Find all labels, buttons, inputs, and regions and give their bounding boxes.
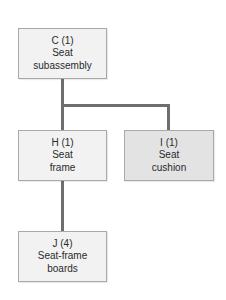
connector-c-branch xyxy=(61,104,170,107)
node-label-line1: Seat xyxy=(159,149,180,162)
node-label-line1: Seat xyxy=(52,149,73,162)
node-label-line2: subassembly xyxy=(33,60,91,73)
node-label-line2: frame xyxy=(50,162,76,175)
node-label-line1: Seat-frame xyxy=(38,250,87,263)
node-code: I (1) xyxy=(160,137,178,150)
node-label-line2: boards xyxy=(47,263,78,276)
node-label-line1: Seat xyxy=(52,47,73,60)
node-i-seat-cushion: I (1) Seat cushion xyxy=(124,130,214,181)
connector-h-to-j xyxy=(61,181,64,232)
node-label-line2: cushion xyxy=(152,162,186,175)
product-structure-diagram: C (1) Seat subassembly H (1) Seat frame … xyxy=(0,0,226,300)
connector-to-i xyxy=(167,104,170,131)
node-code: H (1) xyxy=(51,137,73,150)
node-code: J (4) xyxy=(53,238,73,251)
node-h-seat-frame: H (1) Seat frame xyxy=(18,130,107,181)
node-c-seat-subassembly: C (1) Seat subassembly xyxy=(18,28,107,79)
node-code: C (1) xyxy=(51,35,73,48)
node-j-seat-frame-boards: J (4) Seat-frame boards xyxy=(18,231,107,282)
